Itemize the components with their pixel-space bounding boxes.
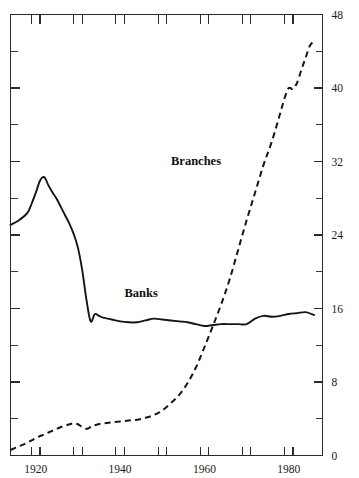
series-line-branches <box>11 41 315 450</box>
y-tick-label: 8 <box>332 376 338 388</box>
x-tick-label: 1960 <box>193 463 216 475</box>
data-series-group <box>11 41 315 450</box>
y-tick-label: 24 <box>332 229 344 241</box>
plot-area-border <box>11 15 323 456</box>
chart-figure: 081624324048 1920194019601980 BranchesBa… <box>0 0 359 478</box>
y-tick-label: 0 <box>332 450 338 462</box>
x-tick-label: 1980 <box>277 463 300 475</box>
x-axis-tick-labels: 1920194019601980 <box>24 463 300 475</box>
line-chart: 081624324048 1920194019601980 BranchesBa… <box>0 0 359 478</box>
annotation-banks: Banks <box>125 286 158 300</box>
y-axis-ticks <box>11 15 323 456</box>
series-line-banks <box>11 177 315 326</box>
y-tick-label: 32 <box>332 156 344 168</box>
y-tick-label: 16 <box>332 303 344 315</box>
annotation-branches: Branches <box>171 154 221 168</box>
x-axis-ticks <box>32 15 323 456</box>
y-axis-tick-labels: 081624324048 <box>332 9 344 462</box>
y-tick-label: 48 <box>332 9 344 21</box>
x-tick-label: 1920 <box>24 463 47 475</box>
y-tick-label: 40 <box>332 82 344 94</box>
plot-frame <box>11 15 323 456</box>
x-tick-label: 1940 <box>109 463 132 475</box>
series-annotations: BranchesBanks <box>125 154 222 299</box>
